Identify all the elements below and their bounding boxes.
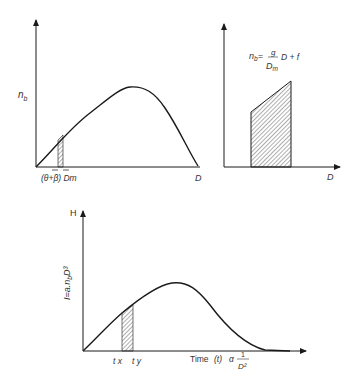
svg-text:nb=: nb= [249,51,263,62]
svg-text:α: α [229,354,235,364]
panel-a-y-label: nb [18,89,28,102]
panel-c-y-top-label: H [70,208,77,218]
panel-b-formula: nb= g D + f Dm [249,48,301,72]
diagram-canvas: nb (θ+β) Dm D nb= g D + f Dm D H I=a.nbD… [0,0,359,380]
panel-a-size-distribution: nb (θ+β) Dm D [18,20,202,183]
panel-c-y-label: I=a.nbD³ [62,266,73,300]
tick-tx: t x [113,356,123,366]
tick-ty: t y [132,356,142,366]
panel-a-strip-label: (θ+β) Dm [41,173,77,183]
svg-text:D + f: D + f [281,52,301,62]
svg-text:Dm: Dm [266,61,279,72]
svg-text:g: g [271,48,276,57]
svg-text:1: 1 [241,351,245,358]
panel-a-x-label: D [195,173,202,183]
panel-c-intensity-curve [83,283,290,351]
svg-text:Time: Time [190,354,209,364]
panel-c-intensity-time: H I=a.nbD³ t x t y Time (t) α 1 D² [62,208,306,371]
panel-c-x-label: Time (t) α 1 D² [190,351,249,371]
svg-text:D²: D² [238,362,247,371]
svg-text:(t): (t) [214,354,222,364]
panel-b-linear-distribution: nb= g D + f Dm D [224,24,340,182]
panel-b-shaded-trapezoid [251,81,291,167]
panel-b-x-label: D [327,172,334,182]
